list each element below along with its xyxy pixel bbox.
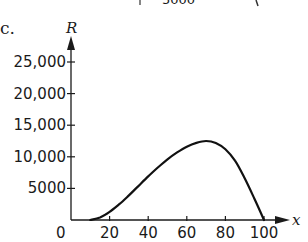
top-fragment-text: 5000 <box>162 0 195 7</box>
y-axis-label: R <box>65 19 77 37</box>
y-tick-label: 10,000 <box>14 148 67 166</box>
x-tick-label: 60 <box>177 224 196 242</box>
y-tick-label: 5000 <box>28 179 66 197</box>
y-tick-label: 25,000 <box>14 53 67 71</box>
x-tick-label: 80 <box>216 224 235 242</box>
y-tick-label: 15,000 <box>14 116 67 134</box>
top-fragment: 5000 <box>140 0 258 7</box>
origin-label: 0 <box>56 224 66 242</box>
x-axis-label: x <box>292 211 301 229</box>
top-fragment-arrow <box>256 0 258 6</box>
x-tick-label: 20 <box>100 224 119 242</box>
x-tick-label: 40 <box>139 224 158 242</box>
x-axis-arrow-icon <box>275 216 290 224</box>
revenue-chart: 5000 c. R x 0 500010,00015,00020,00025,0… <box>0 0 308 242</box>
y-ticks: 500010,00015,00020,00025,000 <box>14 53 76 197</box>
axes: R x 0 <box>56 19 301 242</box>
x-tick-label: 100 <box>250 224 279 242</box>
revenue-curve <box>90 141 264 220</box>
y-axis-arrow-icon <box>67 36 75 50</box>
part-label: c. <box>0 18 15 38</box>
y-tick-label: 20,000 <box>14 85 67 103</box>
